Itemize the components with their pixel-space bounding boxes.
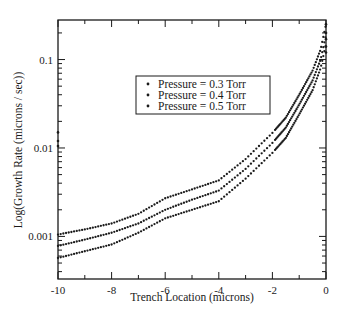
data-point bbox=[100, 246, 102, 248]
data-point bbox=[315, 61, 317, 63]
data-point bbox=[231, 179, 233, 181]
data-point bbox=[226, 183, 228, 185]
data-point bbox=[183, 191, 185, 193]
data-point bbox=[317, 65, 319, 67]
data-point bbox=[261, 142, 263, 144]
data-point bbox=[97, 235, 99, 237]
data-point bbox=[185, 210, 187, 212]
data-point bbox=[132, 224, 134, 226]
data-point bbox=[269, 144, 271, 146]
data-point bbox=[172, 194, 174, 196]
data-point bbox=[113, 231, 115, 233]
data-point bbox=[188, 200, 190, 202]
data-point bbox=[151, 205, 153, 207]
data-point bbox=[100, 225, 102, 227]
data-point bbox=[258, 145, 260, 147]
data-point bbox=[196, 207, 198, 209]
data-point bbox=[318, 71, 320, 73]
data-point bbox=[76, 230, 78, 232]
data-point bbox=[321, 51, 323, 53]
data-point bbox=[145, 227, 147, 229]
data-point bbox=[218, 179, 220, 181]
data-point bbox=[303, 85, 305, 87]
data-point bbox=[258, 155, 260, 157]
data-point bbox=[94, 236, 96, 238]
data-point bbox=[180, 203, 182, 205]
data-point bbox=[310, 71, 312, 73]
y-axis-title: Log(Growth Rate (microns / sec)) bbox=[12, 72, 25, 229]
data-point bbox=[210, 182, 212, 184]
data-point bbox=[266, 157, 268, 159]
data-point bbox=[320, 65, 322, 67]
data-point bbox=[129, 225, 131, 227]
data-point bbox=[231, 189, 233, 191]
data-point bbox=[78, 240, 80, 242]
data-point bbox=[247, 155, 249, 157]
data-point bbox=[215, 190, 217, 192]
data-point bbox=[148, 226, 150, 228]
data-point bbox=[223, 175, 225, 177]
data-point bbox=[271, 152, 273, 154]
data-point bbox=[110, 243, 112, 245]
data-point bbox=[127, 226, 129, 228]
data-point bbox=[199, 206, 201, 208]
data-point bbox=[309, 93, 311, 95]
data-point bbox=[151, 216, 153, 218]
data-point bbox=[177, 213, 179, 215]
x-axis-title: Trench Location (microns) bbox=[130, 291, 254, 304]
legend-marker-0 bbox=[147, 83, 150, 86]
data-point bbox=[92, 236, 94, 238]
data-point bbox=[302, 87, 304, 89]
data-point bbox=[105, 245, 107, 247]
data-point bbox=[175, 205, 177, 207]
data-point bbox=[167, 196, 169, 198]
data-point bbox=[202, 205, 204, 207]
data-point bbox=[76, 240, 78, 242]
data-point bbox=[261, 162, 263, 164]
data-point bbox=[223, 185, 225, 187]
data-point bbox=[94, 247, 96, 249]
data-point bbox=[236, 174, 238, 176]
data-point bbox=[242, 170, 244, 172]
data-point bbox=[271, 142, 273, 144]
data-point bbox=[250, 163, 252, 165]
data-point bbox=[132, 215, 134, 217]
data-point bbox=[73, 253, 75, 255]
data-point bbox=[239, 162, 241, 164]
data-point bbox=[57, 245, 59, 247]
data-point bbox=[239, 172, 241, 174]
data-point bbox=[321, 41, 323, 43]
data-point bbox=[306, 79, 308, 81]
data-point bbox=[140, 211, 142, 213]
data-point bbox=[308, 95, 310, 97]
data-point bbox=[263, 150, 265, 152]
x-tick-label: -2 bbox=[268, 284, 277, 296]
data-point bbox=[247, 165, 249, 167]
data-point bbox=[62, 232, 64, 234]
data-point bbox=[97, 247, 99, 249]
data-point bbox=[299, 93, 301, 95]
data-point bbox=[70, 253, 72, 255]
series-1 bbox=[57, 36, 327, 247]
data-point bbox=[319, 50, 321, 52]
data-point bbox=[210, 203, 212, 205]
data-point bbox=[113, 242, 115, 244]
legend: Pressure = 0.3 Torr Pressure = 0.4 Torr … bbox=[136, 76, 270, 114]
data-point bbox=[212, 181, 214, 183]
data-point bbox=[266, 137, 268, 139]
data-point bbox=[110, 222, 112, 224]
data-point bbox=[169, 195, 171, 197]
data-point bbox=[127, 217, 129, 219]
data-point bbox=[226, 193, 228, 195]
data-point bbox=[68, 231, 70, 233]
data-point bbox=[316, 77, 318, 79]
data-point bbox=[244, 158, 246, 160]
data-point bbox=[228, 191, 230, 193]
data-point bbox=[169, 207, 171, 209]
data-point bbox=[199, 196, 201, 198]
data-point bbox=[124, 237, 126, 239]
data-point bbox=[105, 233, 107, 235]
legend-marker-2 bbox=[147, 105, 150, 108]
data-point bbox=[215, 201, 217, 203]
data-point bbox=[86, 228, 88, 230]
